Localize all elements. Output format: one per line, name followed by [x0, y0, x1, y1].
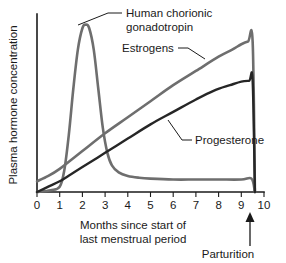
- x-ticklabel-4: 4: [125, 199, 132, 211]
- hcg-label-line1: Human chorionic: [126, 7, 213, 19]
- hcg-leader-line: [78, 13, 122, 25]
- parturition-marker: Parturition: [202, 212, 255, 260]
- x-axis-title-line2: last menstrual period: [80, 233, 187, 245]
- curve-estrogens: [37, 30, 255, 192]
- chart-svg: Plasma hormone concentration 0 1 2 3 4 5: [0, 0, 286, 263]
- x-ticklabel-0: 0: [34, 199, 40, 211]
- x-ticklabel-3: 3: [102, 199, 108, 211]
- x-ticklabel-2: 2: [79, 199, 85, 211]
- hcg-label-line2: gonadotropin: [126, 21, 193, 33]
- y-axis-label: Plasma hormone concentration: [7, 25, 19, 184]
- x-ticklabel-5: 5: [147, 199, 153, 211]
- progesterone-leader-line: [168, 120, 192, 140]
- x-axis-tick-labels: 0 1 2 3 4 5 6 7 8 9 10: [34, 199, 271, 211]
- estrogens-leader-line: [178, 48, 205, 59]
- hormone-concentration-chart: Plasma hormone concentration 0 1 2 3 4 5: [0, 0, 286, 263]
- x-ticklabel-7: 7: [193, 199, 199, 211]
- x-ticklabel-1: 1: [56, 199, 62, 211]
- parturition-arrow-head: [246, 212, 255, 222]
- x-ticklabel-6: 6: [170, 199, 176, 211]
- x-ticklabel-8: 8: [215, 199, 221, 211]
- estrogens-label: Estrogens: [122, 42, 174, 54]
- parturition-label: Parturition: [202, 248, 254, 260]
- x-ticklabel-9: 9: [238, 199, 244, 211]
- x-ticklabel-10: 10: [258, 199, 271, 211]
- x-axis-title-line1: Months since start of: [80, 219, 187, 231]
- progesterone-label: Progesterone: [195, 134, 264, 146]
